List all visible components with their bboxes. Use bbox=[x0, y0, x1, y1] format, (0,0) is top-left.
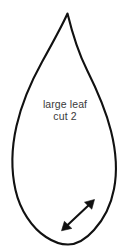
pattern-label-line-2: cut 2 bbox=[0, 110, 130, 122]
pattern-drawing bbox=[0, 0, 130, 251]
pattern-sheet: large leaf cut 2 bbox=[0, 0, 130, 251]
leaf-outline-shape bbox=[12, 14, 115, 245]
pattern-label-line-1: large leaf bbox=[0, 98, 130, 110]
pattern-piece-label: large leaf cut 2 bbox=[0, 98, 130, 122]
